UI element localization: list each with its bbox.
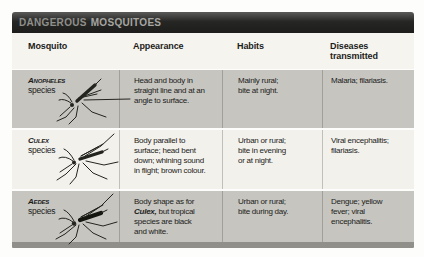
table-title-word-1: DANGEROUS [19, 17, 87, 28]
appearance-culex-emphasis: Culex, [134, 207, 157, 216]
table-title-word-2: MOSQUITOES [91, 17, 162, 28]
table-row-anopheles: Anopheles species Head and body in strai… [12, 70, 414, 128]
header-diseases-transmitted: Diseases transmitted [322, 33, 414, 69]
table-title-bar: DANGEROUS MOSQUITOES [12, 12, 414, 33]
habits-cell: Urban or rural; bite during day. [222, 191, 322, 242]
table-row-culex: Culex species Body parallel to surface; … [12, 130, 414, 189]
header-habits: Habits [222, 33, 322, 69]
mosquito-cell: Aedes species [12, 191, 119, 242]
dangerous-mosquitoes-table: DANGEROUS MOSQUITOES Mosquito Appearance… [12, 12, 414, 248]
diseases-cell: Dengue; yellow fever; viral encephalitis… [322, 191, 414, 242]
habits-cell: Urban or rural; bite in evening or at ni… [222, 130, 322, 189]
header-appearance: Appearance [119, 33, 222, 69]
anopheles-mosquito-illustration [52, 71, 136, 127]
mosquito-cell: Anopheles species [12, 70, 119, 128]
aedes-mosquito-illustration [52, 192, 136, 248]
culex-mosquito-illustration [52, 131, 136, 187]
appearance-text-prefix: Body shape as for [134, 197, 194, 206]
table-header-row: Mosquito Appearance Habits Diseases tran… [12, 33, 414, 69]
header-mosquito: Mosquito [12, 33, 119, 69]
diseases-cell: Viral encephalitis; filariasis. [322, 130, 414, 189]
table-row-aedes: Aedes species Body shape as for Culex, b… [12, 191, 414, 242]
diseases-cell: Malaria; filariasis. [322, 70, 414, 128]
habits-cell: Mainly rural; bite at night. [222, 70, 322, 128]
mosquito-cell: Culex species [12, 130, 119, 189]
